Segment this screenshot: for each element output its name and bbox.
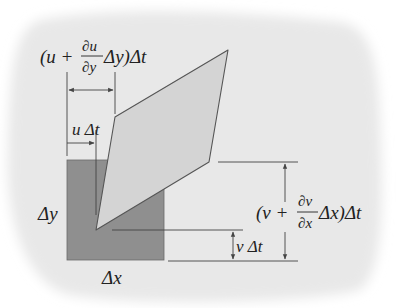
delta-y-label: Δy [37,203,58,224]
right-label-frac-num: ∂v [298,193,312,209]
right-label-open: (v + [256,202,288,224]
top-label-frac-den: ∂y [82,59,96,75]
u-dt-label: u Δt [72,120,101,139]
delta-x-label: Δx [101,267,122,288]
right-label-close: Δx)Δt [318,202,362,224]
diagram-canvas: (u + ∂u ∂y Δy)Δt u Δt Δy Δx v Δt (v + ∂v… [0,0,404,308]
top-label-frac-num: ∂u [82,38,97,54]
top-label-close: Δy)Δt [103,46,147,68]
v-dt-label: v Δt [236,237,264,256]
top-label-open: (u + [40,46,73,68]
right-label-frac-den: ∂x [298,215,312,231]
